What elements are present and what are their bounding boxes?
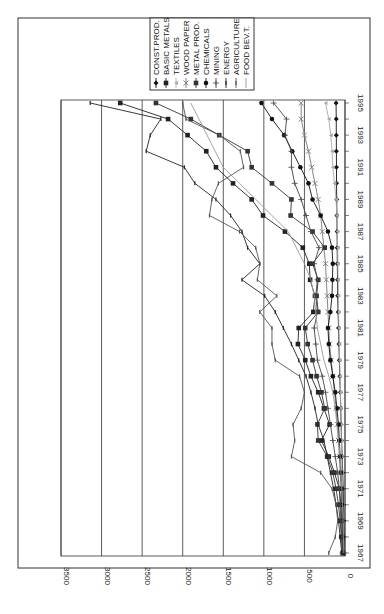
year-tick-label: 1979 bbox=[356, 351, 365, 369]
data-point bbox=[305, 342, 310, 347]
data-point bbox=[314, 374, 319, 379]
data-point bbox=[310, 358, 315, 363]
legend: CONST.PROD.BASIC METALSTEXTILESWOOD PAPE… bbox=[150, 17, 254, 90]
legend-label: METAL PROD. bbox=[192, 22, 201, 75]
data-point bbox=[303, 358, 308, 363]
data-point bbox=[289, 197, 294, 202]
chart: 0500100015002000250030003500 19671969197… bbox=[0, 0, 384, 614]
year-tick-label: 1977 bbox=[356, 383, 365, 401]
data-point bbox=[245, 149, 250, 154]
year-tick-label: 1981 bbox=[356, 319, 365, 337]
data-point bbox=[214, 165, 219, 170]
data-point bbox=[331, 374, 336, 379]
data-point bbox=[166, 117, 171, 122]
data-point bbox=[154, 101, 159, 106]
data-point bbox=[326, 229, 331, 234]
year-tick-label: 1975 bbox=[356, 416, 365, 434]
data-point bbox=[298, 165, 303, 170]
data-point bbox=[331, 261, 336, 266]
year-tick-label: 1985 bbox=[356, 255, 365, 273]
legend-label: CHEMICALS bbox=[202, 28, 211, 75]
value-tick-label: 0 bbox=[346, 574, 355, 579]
legend-label: AGRICULTURE bbox=[232, 18, 241, 75]
year-tick-label: 1987 bbox=[356, 223, 365, 241]
value-tick-label: 3500 bbox=[62, 567, 71, 585]
data-point bbox=[270, 181, 275, 186]
year-tick-label: 1969 bbox=[356, 512, 365, 530]
data-point bbox=[330, 277, 335, 282]
value-tick-label: 2000 bbox=[184, 567, 193, 585]
legend-label: FOOD BEV.T. bbox=[242, 26, 251, 75]
data-point bbox=[330, 294, 335, 299]
legend-label: MINING bbox=[212, 46, 221, 75]
year-tick-label: 1989 bbox=[356, 191, 365, 209]
data-point bbox=[309, 374, 314, 379]
data-point bbox=[322, 245, 327, 250]
data-point bbox=[270, 117, 275, 122]
data-point bbox=[330, 245, 335, 250]
data-point bbox=[328, 310, 333, 315]
year-tick-label: 1993 bbox=[356, 126, 365, 144]
data-point bbox=[259, 101, 264, 106]
value-tick-label: 3000 bbox=[103, 567, 112, 585]
data-point bbox=[310, 197, 315, 202]
data-point bbox=[194, 81, 199, 86]
value-tick-label: 500 bbox=[305, 569, 314, 583]
data-point bbox=[318, 213, 323, 218]
data-point bbox=[316, 438, 321, 443]
value-tick-label: 1000 bbox=[265, 567, 274, 585]
year-tick-label: 1983 bbox=[356, 287, 365, 305]
data-point bbox=[118, 101, 123, 106]
data-point bbox=[288, 213, 293, 218]
data-point bbox=[231, 181, 236, 186]
data-point bbox=[306, 181, 311, 186]
value-tick-label: 1500 bbox=[224, 567, 233, 585]
data-point bbox=[296, 342, 301, 347]
data-point bbox=[303, 326, 308, 331]
year-tick-label: 1995 bbox=[356, 94, 365, 112]
value-axis-ticks: 0500100015002000250030003500 bbox=[62, 567, 355, 585]
data-point bbox=[249, 197, 254, 202]
value-tick-label: 2500 bbox=[143, 567, 152, 585]
data-point bbox=[204, 81, 209, 86]
legend-label: CONST.PROD. bbox=[152, 20, 161, 75]
data-point bbox=[164, 81, 169, 86]
legend-label: BASIC METALS bbox=[162, 17, 171, 75]
data-point bbox=[301, 245, 306, 250]
data-point bbox=[333, 390, 338, 395]
data-point bbox=[328, 358, 333, 363]
legend-label: ENERGY bbox=[222, 41, 231, 75]
data-point bbox=[337, 438, 342, 443]
data-point bbox=[249, 165, 254, 170]
legend-label: TEXTILES bbox=[172, 37, 181, 75]
data-point bbox=[204, 149, 209, 154]
data-point bbox=[296, 326, 301, 331]
legend-label: WOOD PAPER bbox=[182, 20, 191, 75]
data-point bbox=[185, 133, 190, 138]
year-tick-label: 1973 bbox=[356, 448, 365, 466]
year-tick-label: 1967 bbox=[356, 544, 365, 562]
data-point bbox=[261, 213, 266, 218]
data-point bbox=[331, 470, 336, 475]
year-tick-label: 1971 bbox=[356, 480, 365, 498]
data-point bbox=[326, 342, 331, 347]
year-tick-label: 1991 bbox=[356, 158, 365, 176]
data-point bbox=[326, 326, 331, 331]
